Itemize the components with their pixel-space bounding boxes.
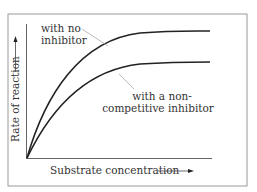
y-axis-label: Rate of reaction bbox=[9, 56, 21, 142]
chart: with no inhibitor with a non- competitiv… bbox=[0, 0, 257, 192]
label-noncompetitive-line1: with a non- bbox=[132, 90, 192, 102]
label-no-inhibitor-line1: with no bbox=[41, 22, 81, 34]
label-noncompetitive-line2: competitive inhibitor bbox=[102, 102, 215, 114]
label-no-inhibitor-line2: inhibitor bbox=[41, 34, 88, 46]
x-axis-label: Substrate concentration bbox=[50, 164, 180, 176]
